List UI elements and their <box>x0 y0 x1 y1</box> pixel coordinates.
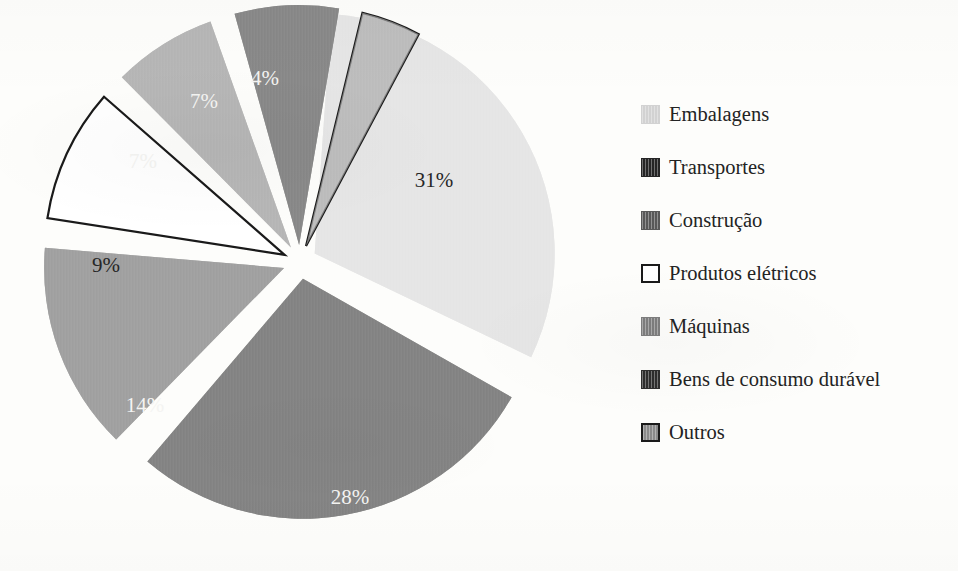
legend-item[interactable]: Transportes <box>641 157 958 177</box>
pie-slice-value-label: 28% <box>331 485 370 509</box>
legend-item-label: Embalagens <box>669 104 769 125</box>
legend-color-swatch <box>641 211 660 230</box>
pie-slice-value-label: 4% <box>251 66 279 90</box>
pie-slice-value-label: 9% <box>92 253 120 277</box>
legend-item[interactable]: Outros <box>641 422 958 442</box>
legend-item-label: Máquinas <box>669 316 750 337</box>
legend-item-label: Outros <box>669 422 725 443</box>
legend-color-swatch <box>641 370 660 389</box>
pie-slice-value-label: 14% <box>126 393 165 417</box>
legend-item-label: Bens de consumo durável <box>669 369 880 390</box>
pie-chart-area: 31%28%14%9%7%7%4% <box>0 0 620 571</box>
pie-slices <box>44 5 555 519</box>
pie-slice-value-label: 7% <box>129 149 157 173</box>
pie-chart-page: 31%28%14%9%7%7%4% EmbalagensTransportesC… <box>0 0 958 571</box>
legend-color-swatch <box>641 158 660 177</box>
legend-item-label: Transportes <box>669 157 765 178</box>
legend-item[interactable]: Máquinas <box>641 316 958 336</box>
legend-item-label: Construção <box>669 210 762 231</box>
pie-slice-value-label: 31% <box>415 168 454 192</box>
pie-slice-value-label: 7% <box>190 89 218 113</box>
chart-legend: EmbalagensTransportesConstruçãoProdutos … <box>641 104 958 442</box>
legend-item-label: Produtos elétricos <box>669 263 816 284</box>
legend-item[interactable]: Produtos elétricos <box>641 263 958 283</box>
legend-color-swatch <box>641 423 660 442</box>
legend-color-swatch <box>641 317 660 336</box>
legend-color-swatch <box>641 264 660 283</box>
legend-item[interactable]: Bens de consumo durável <box>641 369 958 389</box>
legend-color-swatch <box>641 105 660 124</box>
legend-item[interactable]: Embalagens <box>641 104 958 124</box>
legend-item[interactable]: Construção <box>641 210 958 230</box>
pie-chart-svg: 31%28%14%9%7%7%4% <box>0 0 620 571</box>
